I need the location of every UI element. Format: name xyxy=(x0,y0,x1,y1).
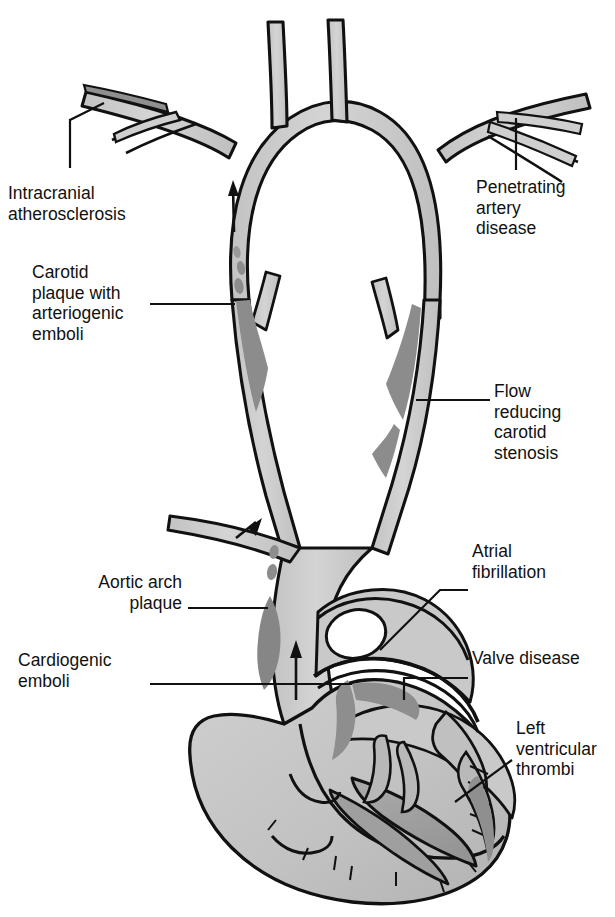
right-carotid-artery xyxy=(372,278,440,554)
leader-intracranial-atherosclerosis xyxy=(70,103,104,168)
right-carotid-branch xyxy=(372,278,398,338)
left-carotid-branch xyxy=(252,272,280,330)
anatomical-diagram: Intracranial atherosclerosis Carotid pla… xyxy=(0,0,615,917)
right-ascending-branch xyxy=(328,20,347,122)
label-aortic-arch-plaque: Aortic arch plaque xyxy=(22,572,182,613)
label-flow-reducing-carotid-stenosis: Flow reducing carotid stenosis xyxy=(494,381,561,463)
label-carotid-plaque: Carotid plaque with arteriogenic emboli xyxy=(32,262,123,344)
label-penetrating-artery-disease: Penetrating artery disease xyxy=(476,177,566,239)
embolus-speck xyxy=(266,563,279,580)
label-cardiogenic-emboli: Cardiogenic emboli xyxy=(18,650,111,691)
label-valve-disease: Valve disease xyxy=(472,648,580,669)
heart xyxy=(190,589,515,903)
left-intracranial-branch xyxy=(82,85,236,158)
left-ascending-branch xyxy=(268,22,287,128)
right-penetrating-branches xyxy=(438,94,590,182)
cerebral-arterial-arch xyxy=(231,20,441,318)
label-intracranial-atherosclerosis: Intracranial atherosclerosis xyxy=(8,183,126,224)
label-atrial-fibrillation: Atrial fibrillation xyxy=(472,541,546,582)
label-left-ventricular-thrombi: Left ventricular thrombi xyxy=(516,718,597,780)
